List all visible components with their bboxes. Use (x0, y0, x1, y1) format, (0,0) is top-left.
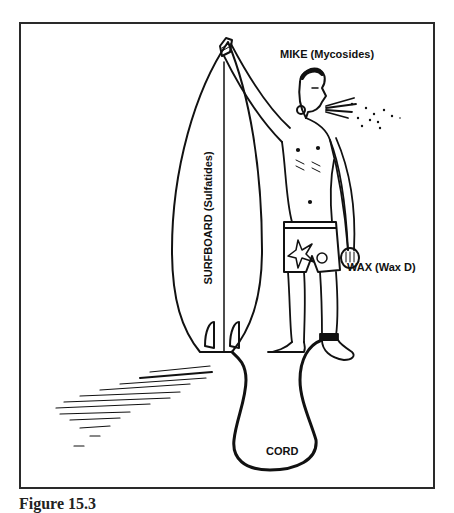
figure-caption: Figure 15.3 (19, 495, 96, 513)
mike-head (297, 69, 326, 118)
label-surfboard: SURFBOARD (Sulfatides) (202, 151, 214, 284)
surfboard-drawing (172, 38, 262, 352)
label-mike: MIKE (Mycosides) (280, 48, 374, 60)
label-wax: WAX (Wax D) (347, 261, 416, 273)
mike-torso (282, 118, 348, 250)
shadow-hatching (56, 366, 212, 446)
mike-shorts (284, 222, 340, 272)
label-cord: CORD (266, 445, 298, 457)
breath-spray (326, 98, 356, 118)
